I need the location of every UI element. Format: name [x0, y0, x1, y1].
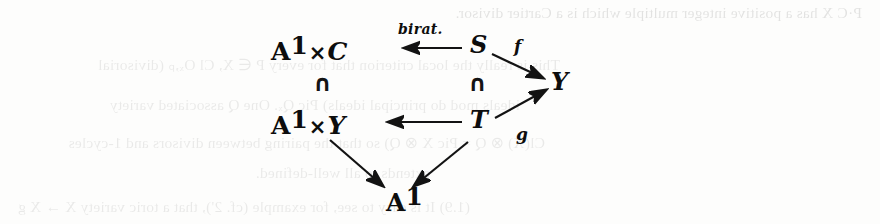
- node-a1-times-c: A1×C: [271, 33, 347, 64]
- node-a1-times-y: A1×Y: [271, 107, 345, 138]
- node-a1-times-y-factor: Y: [327, 111, 345, 140]
- scanned-page: P·C X has a positive integer multiple wh…: [0, 0, 880, 224]
- node-a1-exponent: 1: [405, 182, 422, 211]
- node-a1-times-c-operator: ×: [308, 41, 328, 65]
- inclusion-symbol-right: ∩: [468, 72, 487, 95]
- node-a1-times-y-operator: ×: [308, 115, 328, 139]
- inclusion-symbol-left: ∩: [313, 72, 332, 95]
- node-s: S: [470, 33, 487, 57]
- bleed-text-line-5: extends to all well-defined.: [256, 164, 430, 182]
- arrow-label-f: f: [514, 38, 521, 55]
- arrow-label-g: g: [516, 126, 528, 143]
- node-a1-times-y-exponent: 1: [290, 105, 307, 134]
- bleed-text-line-1: P·C X has a positive integer multiple wh…: [456, 4, 862, 22]
- node-a1-base: A: [386, 188, 405, 217]
- node-a1-times-y-base: A: [271, 111, 290, 140]
- node-a1-times-c-exponent: 1: [290, 31, 307, 60]
- node-t: T: [470, 108, 488, 132]
- arrow-label-birat: birat.: [398, 22, 443, 36]
- node-a1-times-c-base: A: [271, 37, 290, 66]
- node-a1-times-c-factor: C: [327, 37, 347, 66]
- node-y: Y: [551, 70, 568, 94]
- node-a1: A1: [386, 184, 423, 215]
